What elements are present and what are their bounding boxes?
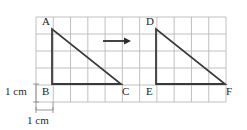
vertex-label-d: D (146, 16, 154, 27)
arrow-head (124, 38, 131, 45)
vertical-scale-label: 1 cm (5, 86, 27, 97)
vertex-label-f: F (226, 86, 232, 97)
vertex-label-c: C (122, 86, 129, 97)
translation-arrow-icon (103, 38, 131, 45)
figure-canvas (0, 0, 247, 130)
vertex-label-a: A (42, 16, 50, 27)
grid (36, 17, 226, 102)
triangle-abc (52, 29, 121, 84)
vertex-label-b: B (42, 86, 49, 97)
triangle-def (156, 29, 225, 84)
horizontal-scale-label: 1 cm (27, 115, 49, 126)
vertex-label-e: E (146, 86, 153, 97)
geometry-figure: A B C D E F 1 cm 1 cm (0, 0, 247, 130)
